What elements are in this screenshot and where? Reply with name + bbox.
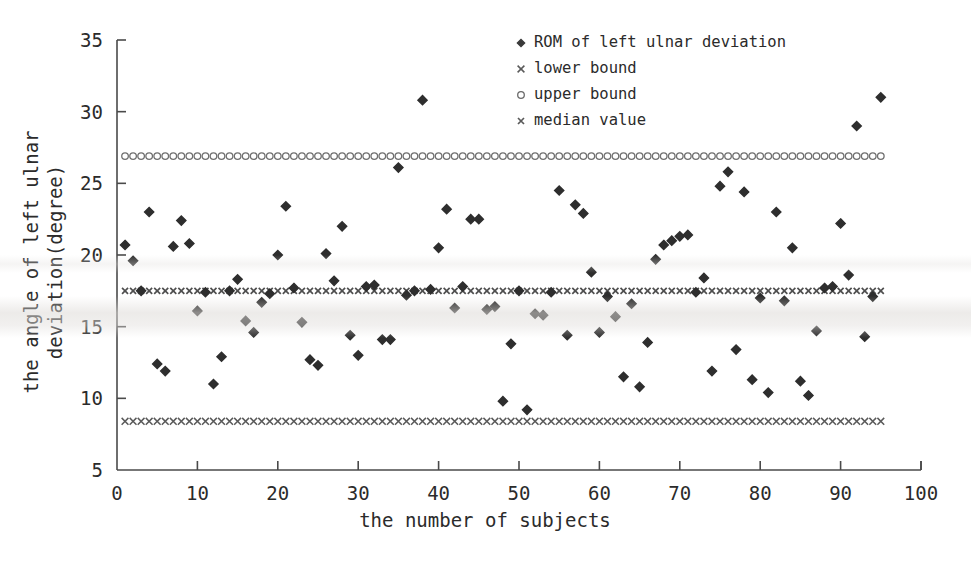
data-point-marker <box>812 326 821 335</box>
upper-bound-marker <box>845 153 852 160</box>
median-value-marker <box>781 288 787 294</box>
lower-bound-marker <box>130 418 137 425</box>
lower-bound-marker <box>459 418 466 425</box>
y-tick-label: 10 <box>80 387 103 409</box>
y-tick-label: 5 <box>92 459 103 481</box>
lower-bound-marker <box>644 418 651 425</box>
upper-bound-marker <box>805 153 812 160</box>
lower-bound-marker <box>411 418 418 425</box>
median-value-marker <box>749 288 755 294</box>
upper-bound-marker <box>765 153 772 160</box>
data-point-marker <box>555 186 564 195</box>
x-axis: 0102030405060708090100 <box>111 461 938 504</box>
data-point-marker <box>297 318 306 327</box>
upper-bound-marker <box>283 153 290 160</box>
median-value-marker <box>130 288 136 294</box>
median-value-marker <box>564 288 570 294</box>
data-point-marker <box>450 303 459 312</box>
median-value-marker <box>492 288 498 294</box>
lower-bound-marker <box>869 418 876 425</box>
lower-bound-marker <box>339 418 346 425</box>
upper-bound-marker <box>323 153 330 160</box>
lower-bound-marker <box>877 418 884 425</box>
upper-bound-marker <box>500 153 507 160</box>
median-value-marker <box>347 288 353 294</box>
scatter-chart: 5101520253035 0102030405060708090100 ROM… <box>0 0 971 567</box>
median-value-marker <box>436 288 442 294</box>
lower-bound-marker <box>500 418 507 425</box>
lower-bound-marker <box>741 418 748 425</box>
upper-bound-marker <box>813 153 820 160</box>
median-value-marker <box>653 288 659 294</box>
lower-bound-marker <box>861 418 868 425</box>
lower-bound-marker <box>588 418 595 425</box>
median-value-marker <box>170 288 176 294</box>
median-value-marker <box>717 288 723 294</box>
upper-bound-marker <box>644 153 651 160</box>
lower-bound-marker <box>427 418 434 425</box>
upper-bound-marker <box>620 153 627 160</box>
lower-bound-marker <box>676 418 683 425</box>
legend-label: lower bound <box>534 59 637 77</box>
upper-bound-marker <box>580 153 587 160</box>
lower-bound-marker <box>226 418 233 425</box>
median-value-marker <box>476 288 482 294</box>
data-point-marker <box>153 359 162 368</box>
lower-bound-marker <box>218 418 225 425</box>
median-value-marker <box>789 288 795 294</box>
y-tick-label: 20 <box>80 244 103 266</box>
lower-bound-marker <box>564 418 571 425</box>
x-tick-label: 0 <box>111 482 122 504</box>
data-point-marker <box>852 121 861 130</box>
upper-bound-marker <box>564 153 571 160</box>
x-tick-label: 30 <box>347 482 370 504</box>
data-point-marker <box>820 283 829 292</box>
median-value-marker <box>741 288 747 294</box>
median-value-marker <box>194 288 200 294</box>
data-point-marker <box>683 230 692 239</box>
upper-bound-marker <box>146 153 153 160</box>
data-point-marker <box>338 222 347 231</box>
median-value-marker <box>331 288 337 294</box>
upper-bound-marker <box>518 92 525 99</box>
data-point-marker <box>675 232 684 241</box>
lower-bound-marker <box>660 418 667 425</box>
y-axis-title-line1: the angle of left ulnar <box>20 130 42 393</box>
lower-bound-marker <box>797 418 804 425</box>
lower-bound-marker <box>194 418 201 425</box>
y-tick-label: 25 <box>80 172 103 194</box>
data-point-marker <box>667 236 676 245</box>
lower-bound-marker <box>652 418 659 425</box>
upper-bound-marker <box>837 153 844 160</box>
lower-bound-marker <box>451 418 458 425</box>
upper-bound-marker <box>291 153 298 160</box>
upper-bound-marker <box>484 153 491 160</box>
lower-bound-marker <box>620 418 627 425</box>
lower-bound-marker <box>210 418 217 425</box>
lower-bound-marker <box>813 418 820 425</box>
lower-bound-marker <box>154 418 161 425</box>
upper-bound-marker <box>275 153 282 160</box>
upper-bound-marker <box>717 153 724 160</box>
x-tick-label: 10 <box>186 482 209 504</box>
data-point-marker <box>137 286 146 295</box>
lower-bound-marker <box>202 418 209 425</box>
median-value-marker <box>846 288 852 294</box>
legend-label: upper bound <box>534 85 637 103</box>
data-point-marker <box>844 270 853 279</box>
upper-bound-marker <box>733 153 740 160</box>
data-points <box>120 93 885 415</box>
lower-bound-marker <box>717 418 724 425</box>
upper-bound-marker <box>154 153 161 160</box>
x-tick-label: 90 <box>829 482 852 504</box>
x-tick-label: 50 <box>508 482 531 504</box>
data-point-marker <box>772 207 781 216</box>
data-point-marker <box>161 367 170 376</box>
upper-bound-marker <box>829 153 836 160</box>
lower-bound-marker <box>138 418 145 425</box>
legend-cross-icon <box>518 66 525 73</box>
median-value-marker <box>243 288 249 294</box>
median-value-marker <box>596 288 602 294</box>
upper-bound-marker <box>757 153 764 160</box>
lower-bound-marker <box>331 418 338 425</box>
